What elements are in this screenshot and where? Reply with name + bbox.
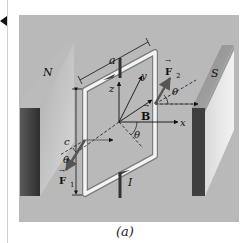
figure-caption: (a) bbox=[0, 224, 250, 239]
force-1-vector-mark: → bbox=[59, 167, 65, 175]
axis-z-label: z bbox=[108, 83, 115, 94]
angle-theta-center: θ bbox=[134, 129, 140, 140]
side-c-label: c bbox=[64, 136, 70, 147]
axis-y-label: y bbox=[140, 70, 147, 81]
force-2-subscript: 2 bbox=[176, 72, 180, 80]
force-1-label: F bbox=[59, 175, 66, 186]
current-loop-diagram: N S a c z y x B → θ F 2 → θ θ F 1 → I bbox=[0, 0, 250, 243]
force-1-subscript: 1 bbox=[70, 181, 74, 189]
axis-x-label: x bbox=[180, 117, 186, 128]
field-b-vector-mark: → bbox=[143, 102, 149, 110]
force-2-label: F bbox=[165, 66, 172, 77]
angle-theta-left: θ bbox=[63, 154, 69, 165]
force-2-vector-mark: → bbox=[165, 57, 171, 65]
side-a-label: a bbox=[109, 54, 116, 67]
field-b-label: B bbox=[141, 110, 150, 123]
north-pole-label: N bbox=[42, 66, 53, 79]
south-pole-label: S bbox=[211, 67, 219, 80]
angle-theta-right: θ bbox=[172, 86, 178, 97]
current-label: I bbox=[127, 176, 133, 189]
